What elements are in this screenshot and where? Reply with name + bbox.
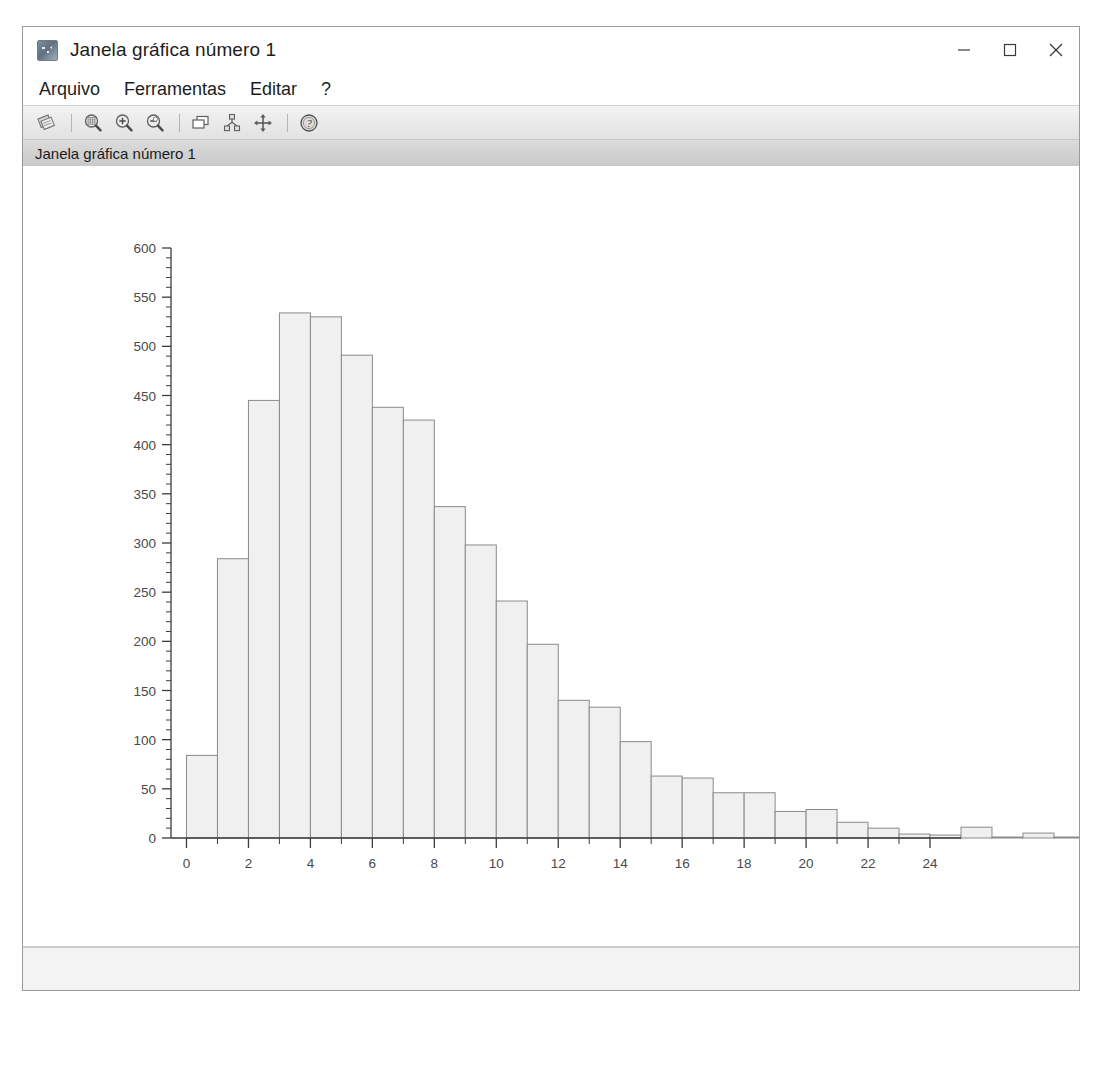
child-window-titlebar[interactable]: Janela gráfica número 1 [23, 140, 1079, 166]
histogram-bar [217, 559, 248, 838]
histogram-bar [682, 778, 713, 838]
histogram-bar [713, 793, 744, 838]
x-tick-label: 0 [183, 856, 191, 871]
x-tick-label: 10 [489, 856, 504, 871]
zoom-out-icon [145, 113, 165, 133]
histogram-bar [620, 742, 651, 838]
svg-text:?: ? [306, 118, 312, 129]
scilab-graph-icon [37, 40, 58, 61]
pan-move-icon [253, 113, 273, 133]
y-tick-label: 600 [133, 241, 156, 256]
window-title: Janela gráfica número 1 [70, 39, 276, 61]
histogram-bar [465, 545, 496, 838]
histogram-bar [496, 601, 527, 838]
histogram-bar [279, 313, 310, 838]
window-controls [941, 27, 1079, 73]
x-tick-label: 16 [675, 856, 690, 871]
y-tick-label: 400 [133, 438, 156, 453]
y-tick-label: 350 [133, 487, 156, 502]
histogram-bar [186, 755, 217, 838]
export-image-button[interactable] [33, 110, 61, 136]
histogram-bar [527, 644, 558, 838]
close-icon[interactable] [1033, 27, 1079, 73]
plot-canvas[interactable]: 0501001502002503003504004505005506000246… [23, 166, 1079, 946]
zoom-in-button[interactable] [110, 110, 138, 136]
y-tick-label: 500 [133, 339, 156, 354]
x-tick-label: 18 [737, 856, 752, 871]
toggle-2d-3d-button[interactable] [187, 110, 215, 136]
y-tick-label: 0 [148, 831, 156, 846]
zoom-out-button[interactable] [141, 110, 169, 136]
x-tick-label: 6 [369, 856, 377, 871]
cascade-windows-icon [190, 114, 212, 132]
toolbar-separator [179, 114, 180, 132]
menubar: Arquivo Ferramentas Editar ? [23, 73, 1079, 106]
histogram-bar [341, 355, 372, 838]
toolbar-separator [71, 114, 72, 132]
x-tick-label: 22 [861, 856, 876, 871]
y-tick-label: 250 [133, 585, 156, 600]
zoom-area-button[interactable] [79, 110, 107, 136]
histogram-bar [1054, 837, 1079, 838]
histogram-bar [651, 776, 682, 838]
histogram-bar [372, 407, 403, 838]
y-tick-label: 200 [133, 634, 156, 649]
x-tick-label: 8 [431, 856, 439, 871]
histogram-bar [961, 827, 992, 838]
menu-editar[interactable]: Editar [248, 78, 299, 101]
y-tick-label: 300 [133, 536, 156, 551]
y-tick-label: 50 [141, 782, 156, 797]
histogram-bar [558, 700, 589, 838]
bars-group [186, 313, 1079, 838]
histogram-chart[interactable]: 0501001502002503003504004505005506000246… [23, 166, 1079, 924]
zoom-in-icon [114, 113, 134, 133]
menu-ferramentas[interactable]: Ferramentas [122, 78, 228, 101]
toolbar: ? [23, 106, 1079, 140]
histogram-bar [1023, 833, 1054, 838]
toolbar-separator [287, 114, 288, 132]
help-button[interactable]: ? [295, 110, 323, 136]
histogram-bar [868, 828, 899, 838]
menu-arquivo[interactable]: Arquivo [37, 78, 102, 101]
help-circle-icon: ? [299, 113, 319, 133]
histogram-bar [837, 822, 868, 838]
window-titlebar[interactable]: Janela gráfica número 1 [23, 27, 1079, 73]
child-window-title: Janela gráfica número 1 [35, 145, 196, 162]
histogram-bar [589, 707, 620, 838]
data-tip-icon [222, 113, 242, 133]
export-image-icon [37, 114, 57, 132]
y-tick-label: 550 [133, 290, 156, 305]
graphics-window: Janela gráfica número 1 Arquivo Ferramen… [22, 26, 1080, 991]
menu-ajuda[interactable]: ? [319, 78, 333, 101]
statusbar [23, 947, 1079, 990]
x-tick-label: 14 [613, 856, 629, 871]
x-tick-label: 12 [551, 856, 566, 871]
pan-button[interactable] [249, 110, 277, 136]
maximize-icon[interactable] [987, 27, 1033, 73]
histogram-bar [434, 507, 465, 838]
x-tick-label: 2 [245, 856, 253, 871]
minimize-icon[interactable] [941, 27, 987, 73]
histogram-bar [806, 809, 837, 838]
histogram-bar [310, 317, 341, 838]
y-tick-label: 150 [133, 684, 156, 699]
histogram-bar [248, 400, 279, 838]
x-tick-label: 4 [307, 856, 315, 871]
x-tick-label: 24 [923, 856, 939, 871]
mdi-area: Janela gráfica número 1 0501001502002503… [23, 140, 1079, 947]
y-tick-label: 100 [133, 733, 156, 748]
x-tick-label: 20 [799, 856, 814, 871]
zoom-area-icon [83, 113, 103, 133]
y-tick-label: 450 [133, 389, 156, 404]
histogram-bar [992, 837, 1023, 838]
histogram-bar [403, 420, 434, 838]
histogram-bar [744, 793, 775, 838]
histogram-bar [775, 811, 806, 838]
data-tip-button[interactable] [218, 110, 246, 136]
